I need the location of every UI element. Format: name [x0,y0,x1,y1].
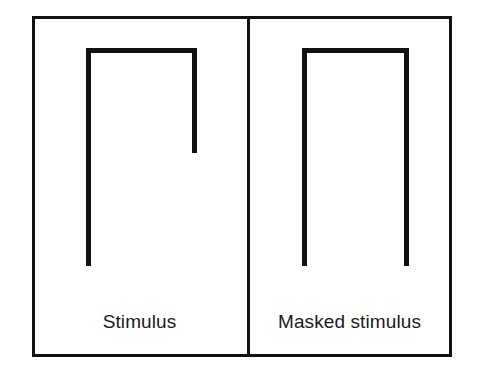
figure-container: Stimulus Masked stimulus [0,0,478,375]
stimulus-panel-label: Stimulus [32,312,247,331]
masked-stimulus-panel-label: Masked stimulus [247,312,452,331]
